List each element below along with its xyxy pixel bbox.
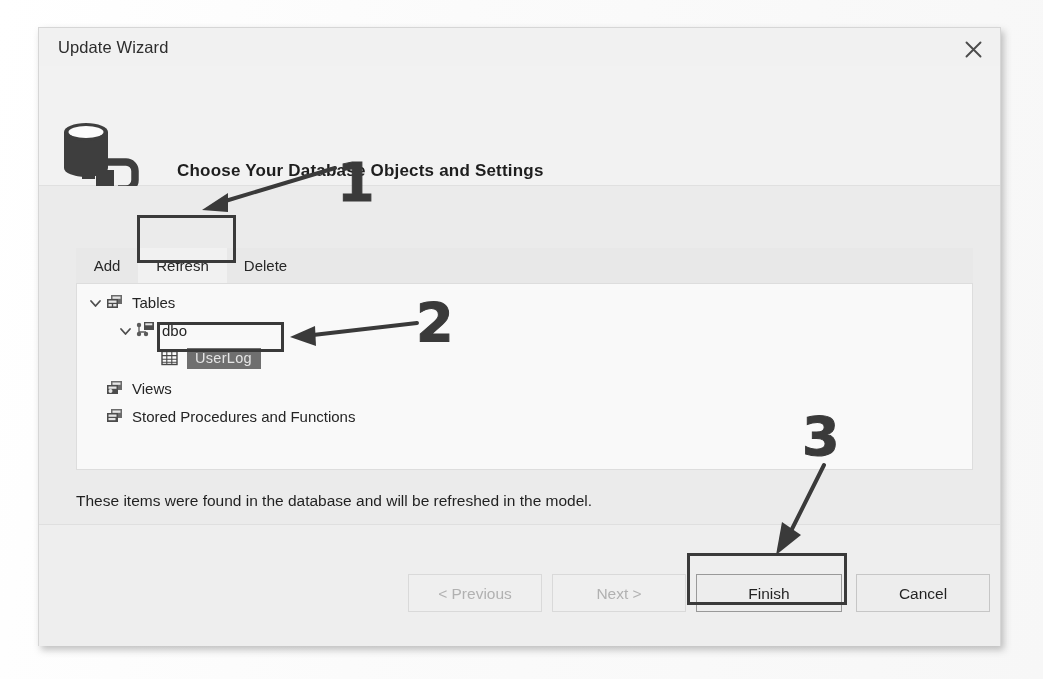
tab-refresh[interactable]: Refresh (138, 248, 227, 283)
sproc-icon (105, 407, 127, 425)
previous-button[interactable]: < Previous (408, 574, 542, 612)
tree-node-views[interactable]: Views (105, 375, 172, 401)
body-region: Add Refresh Delete (39, 186, 1000, 526)
tree-node-stored-procedures[interactable]: Stored Procedures and Functions (105, 403, 355, 429)
next-button[interactable]: Next > (552, 574, 686, 612)
tab-add[interactable]: Add (76, 248, 138, 283)
views-icon (105, 379, 127, 397)
update-wizard-dialog: Update Wizard Choose Your Data (38, 27, 1001, 646)
annotation-number-1: 1 (337, 156, 375, 210)
tab-strip: Add Refresh Delete (76, 248, 973, 284)
tree-node-label: UserLog (187, 348, 261, 369)
chevron-down-icon[interactable] (117, 321, 135, 339)
status-message: These items were found in the database a… (76, 492, 592, 510)
table-icon (160, 349, 182, 367)
schema-icon (135, 321, 157, 339)
tree-node-userlog[interactable]: UserLog (157, 345, 264, 371)
annotation-number-2: 2 (416, 296, 454, 350)
chevron-down-icon[interactable] (87, 293, 105, 311)
finish-button[interactable]: Finish (696, 574, 842, 612)
tab-delete[interactable]: Delete (227, 248, 304, 283)
tree-node-label: Tables (132, 294, 175, 311)
title-bar: Update Wizard (39, 28, 1000, 66)
tree-node-label: Views (132, 380, 172, 397)
close-icon[interactable] (954, 34, 992, 64)
tree-node-label: Stored Procedures and Functions (132, 408, 355, 425)
tree-node-dbo[interactable]: dbo (117, 317, 187, 343)
tree-node-tables[interactable]: Tables (87, 289, 175, 315)
dialog-footer: < Previous Next > Finish Cancel (39, 525, 1000, 646)
header-band: Choose Your Database Objects and Setting… (39, 66, 1000, 186)
tables-icon (105, 293, 127, 311)
window-title: Update Wizard (58, 38, 168, 57)
cancel-button[interactable]: Cancel (856, 574, 990, 612)
annotation-number-3: 3 (802, 410, 840, 464)
tree-node-label: dbo (162, 322, 187, 339)
